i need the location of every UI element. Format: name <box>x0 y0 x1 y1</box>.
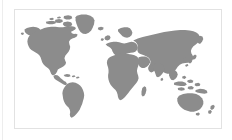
world-map-panel: Grey silhouette world map on a white bac… <box>0 0 232 140</box>
map-card: Grey silhouette world map on a white bac… <box>14 9 222 129</box>
map-canvas[interactable]: Grey silhouette world map on a white bac… <box>15 10 221 128</box>
left-divider-rule <box>2 0 3 140</box>
world-map-svg <box>15 10 221 128</box>
